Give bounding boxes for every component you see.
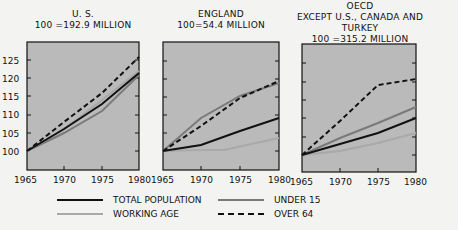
oecd-x-1970: 1970 xyxy=(329,177,352,187)
y-tick-115: 115 xyxy=(2,92,19,102)
england-x-1970: 1970 xyxy=(190,175,213,185)
solid-light-gray-line-icon xyxy=(57,213,103,215)
y-axis-labels: 125 120 115 110 105 100 xyxy=(2,56,19,157)
legend-item-total: TOTAL POPULATION xyxy=(57,195,202,205)
y-tick-120: 120 xyxy=(2,74,19,84)
panel-oecd-x-labels: 1965 1970 1975 1980 xyxy=(290,177,427,187)
legend-label-under15: UNDER 15 xyxy=(274,195,321,205)
england-x-1975: 1975 xyxy=(229,175,252,185)
us-x-1975: 1975 xyxy=(91,175,114,185)
legend-item-working-age: WORKING AGE xyxy=(57,209,179,219)
panel-us: 1965 1970 1975 1980 xyxy=(14,42,151,185)
england-x-1980: 1980 xyxy=(268,175,291,185)
panel-england: 1965 1970 1975 1980 xyxy=(151,42,291,185)
england-x-1965: 1965 xyxy=(151,175,174,185)
panel-england-x-labels: 1965 1970 1975 1980 xyxy=(151,175,291,185)
dashed-black-line-icon xyxy=(218,213,264,215)
legend-label-over64: OVER 64 xyxy=(274,209,313,219)
oecd-x-1965: 1965 xyxy=(290,177,313,187)
y-tick-125: 125 xyxy=(2,56,19,66)
legend-item-under15: UNDER 15 xyxy=(218,195,321,205)
oecd-x-1975: 1975 xyxy=(367,177,390,187)
panel-us-x-labels: 1965 1970 1975 1980 xyxy=(14,175,151,185)
legend-label-total: TOTAL POPULATION xyxy=(113,195,202,205)
us-x-1970: 1970 xyxy=(53,175,76,185)
solid-black-line-icon xyxy=(57,199,103,201)
us-x-1965: 1965 xyxy=(14,175,37,185)
solid-gray-line-icon xyxy=(218,199,264,201)
legend-item-over64: OVER 64 xyxy=(218,209,313,219)
y-tick-100: 100 xyxy=(2,147,19,157)
y-tick-110: 110 xyxy=(2,110,19,120)
legend-label-working-age: WORKING AGE xyxy=(113,209,179,219)
y-tick-105: 105 xyxy=(2,129,19,139)
oecd-x-1980: 1980 xyxy=(404,177,427,187)
us-x-1980: 1980 xyxy=(128,175,151,185)
panel-oecd: 1965 1970 1975 1980 xyxy=(290,44,427,187)
